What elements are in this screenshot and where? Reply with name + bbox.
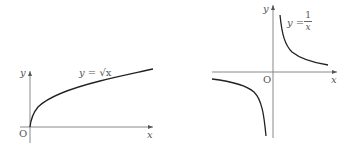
recip-curve-q3: [212, 79, 266, 136]
recip-y-axis-label: y: [263, 4, 269, 14]
recip-x-axis-label: x: [331, 75, 337, 85]
sqrt-label-lhs: y: [79, 67, 85, 78]
sqrt-x-axis-label: x: [147, 130, 153, 140]
sqrt-graph: [20, 69, 153, 143]
recip-denominator: x: [305, 23, 310, 32]
sqrt-function-label: y = √x: [79, 68, 111, 78]
recip-origin-label: O: [263, 75, 271, 85]
reciprocal-graph: [212, 5, 337, 138]
recip-lhs-text: y: [287, 17, 293, 28]
sqrt-y-axis-label: y: [20, 68, 26, 78]
sqrt-label-rhs: √x: [99, 67, 111, 78]
recip-label-lhs: y =: [287, 18, 304, 28]
recip-label-fraction: 1 x: [304, 11, 312, 32]
recip-numerator: 1: [305, 11, 311, 20]
recip-eq-text: =: [296, 17, 304, 28]
sqrt-label-eq: =: [88, 67, 96, 78]
sqrt-origin-label: O: [19, 129, 27, 139]
